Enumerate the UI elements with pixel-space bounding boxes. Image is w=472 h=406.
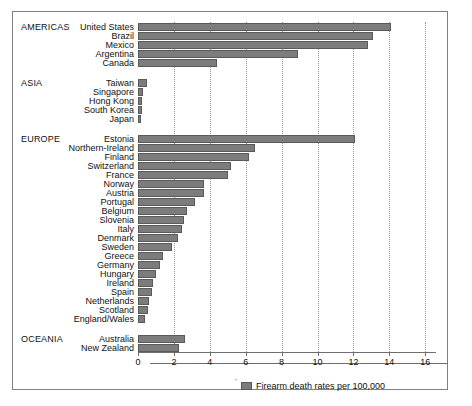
bar-portugal [138,198,195,206]
bar-england-wales [138,315,145,323]
bar-france [138,171,228,179]
category-label-canada: Canada [13,58,134,68]
group-label-oceania: OCEANIA [21,334,63,344]
bar-spain [138,288,152,296]
bar-northern-ireland [138,144,255,152]
bar-denmark [138,234,178,242]
group-label-asia: ASIA [21,78,42,88]
legend-swatch-icon [241,382,252,390]
bar-netherlands [138,297,149,305]
bar-estonia [138,135,355,143]
bar-singapore [138,88,143,96]
bar-taiwan [138,79,147,87]
bar-norway [138,180,204,188]
bar-greece [138,252,163,260]
bar-hong-kong [138,97,142,105]
tick-label-0: 0 [123,357,153,367]
bar-finland [138,153,249,161]
legend-tick-mark: ' [235,377,237,386]
bar-canada [138,59,217,67]
category-label-new-zealand: New Zealand [13,343,134,353]
chart-legend: Firearm death rates per 100,000 [241,381,385,391]
bar-australia [138,335,185,343]
bar-belgium [138,207,187,215]
tick-label-14: 14 [374,357,404,367]
bar-slovenia [138,216,184,224]
bar-united-states [138,23,391,31]
gridline-6 [246,22,248,352]
tick-label-10: 10 [303,357,333,367]
bar-argentina [138,50,298,58]
bar-ireland [138,279,153,287]
legend-label: Firearm death rates per 100,000 [256,381,385,391]
bar-new-zealand [138,344,179,352]
bar-hungary [138,270,156,278]
gridline-12 [353,22,355,352]
bar-mexico [138,41,368,49]
tick-label-2: 2 [159,357,189,367]
tick-label-16: 16 [410,357,440,367]
bar-sweden [138,243,172,251]
bar-japan [138,115,141,123]
tick-label-12: 12 [338,357,368,367]
tick-label-6: 6 [231,357,261,367]
bar-south-korea [138,106,142,114]
chart-frame: United StatesBrazilMexicoArgentinaCanada… [12,11,448,390]
group-label-americas: AMERICAS [21,22,70,32]
x-axis-rule [138,352,436,353]
gridline-10 [318,22,320,352]
chart-screenshot: United StatesBrazilMexicoArgentinaCanada… [0,0,472,406]
tick-label-8: 8 [267,357,297,367]
bar-germany [138,261,160,269]
bar-brazil [138,32,373,40]
tick-label-4: 4 [195,357,225,367]
gridline-16 [425,22,427,352]
gridline-8 [282,22,284,352]
bar-switzerland [138,162,231,170]
bar-scotland [138,306,148,314]
gridline-14 [389,22,391,352]
bar-italy [138,225,182,233]
gridline-4 [210,22,212,352]
group-label-europe: EUROPE [21,134,60,144]
bar-austria [138,189,204,197]
category-label-japan: Japan [13,114,134,124]
category-label-england-wales: England/Wales [13,314,134,324]
